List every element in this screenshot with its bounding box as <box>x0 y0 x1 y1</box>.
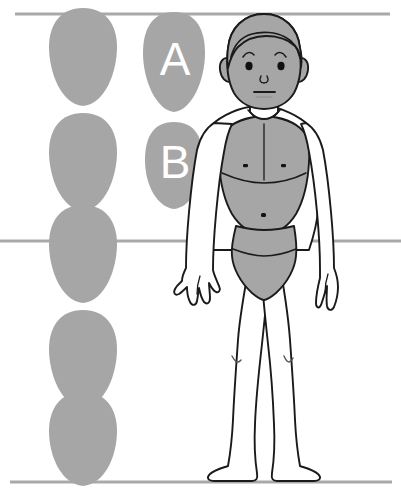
eye-left <box>245 62 252 70</box>
shape-b-label: B <box>160 136 191 188</box>
diagram-canvas: A B <box>0 0 401 495</box>
nipple-left <box>243 164 248 167</box>
proportion-diagram-svg: A B <box>0 0 401 495</box>
shape-a-label: A <box>160 33 191 85</box>
navel <box>261 213 266 217</box>
head-height-measuring-column <box>49 8 117 486</box>
nipple-right <box>281 164 286 167</box>
eye-right <box>277 62 284 70</box>
